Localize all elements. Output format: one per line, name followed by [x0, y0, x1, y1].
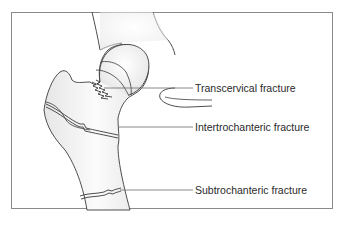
label-transcervical-fracture: Transcervical fracture — [195, 82, 296, 94]
femur-illustration — [0, 0, 350, 233]
label-subtrochanteric-fracture: Subtrochanteric fracture — [195, 184, 307, 196]
label-intertrochanteric-fracture: Intertrochanteric fracture — [195, 121, 309, 133]
